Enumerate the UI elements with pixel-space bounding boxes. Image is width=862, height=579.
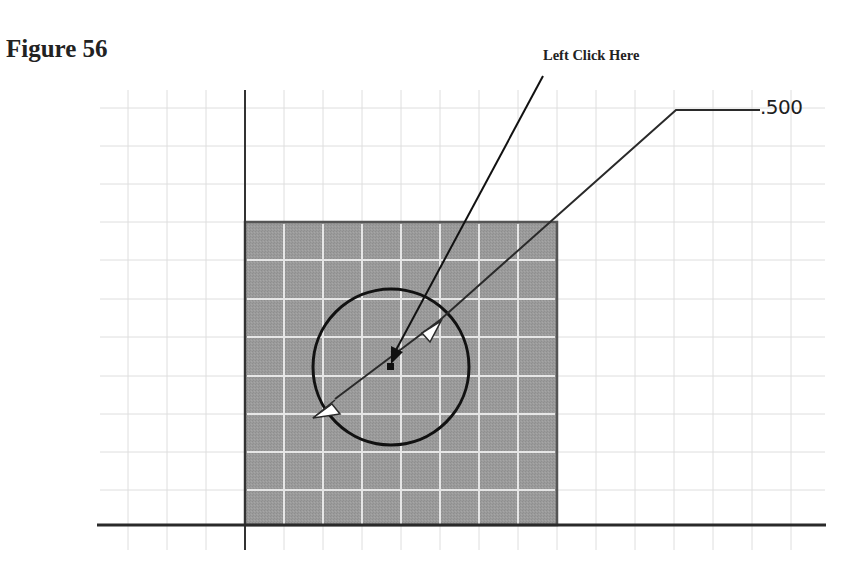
circle-center-point[interactable] [387,363,394,370]
sketch-canvas[interactable] [0,0,862,579]
square-profile[interactable] [245,222,557,525]
callout-label: Left Click Here [543,48,639,63]
dimension-value[interactable]: .500 [760,97,803,117]
